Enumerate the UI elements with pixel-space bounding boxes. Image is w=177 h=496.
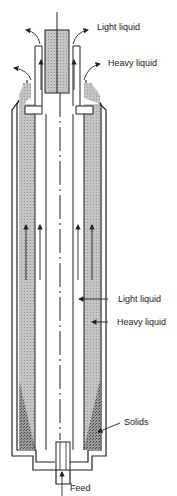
baffle-left — [25, 106, 42, 114]
label-heavy-liquid-out: Heavy liquid — [108, 58, 157, 68]
label-heavy-liquid-zone: Heavy liquid — [117, 317, 166, 327]
baffle-right — [76, 106, 93, 114]
label-light-liquid-zone: Light liquid — [118, 294, 161, 304]
light-out-arrow-right — [73, 30, 88, 44]
heavy-out-arrow-left — [14, 68, 31, 80]
feed-nozzle — [56, 442, 70, 470]
label-light-liquid-out: Light liquid — [97, 22, 140, 32]
heavy-out-arrow-right — [84, 64, 100, 80]
label-feed: Feed — [70, 483, 91, 493]
light-out-arrow-left — [26, 30, 40, 44]
label-solids: Solids — [124, 417, 149, 427]
heavy-liquid-top-right — [84, 83, 100, 104]
diagram-canvas: Light liquid Heavy liquid Light liquid H… — [0, 0, 177, 496]
centrifuge-diagram: Light liquid Heavy liquid Light liquid H… — [0, 0, 177, 496]
heavy-liquid-top-left — [19, 83, 31, 104]
